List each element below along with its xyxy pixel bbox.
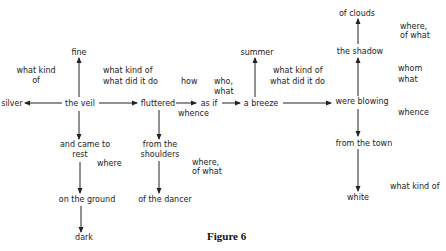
question-whom: whom <box>398 64 423 73</box>
node-from-the-town: from the town <box>336 139 392 148</box>
node-were-blowing: were blowing <box>335 97 388 106</box>
question-where-rest: where <box>97 159 122 168</box>
question-whence-blowing: whence <box>398 108 429 117</box>
node-fine: fine <box>71 48 86 57</box>
node-from-the-shoulders-line2: shoulders <box>141 150 180 159</box>
node-silver: silver <box>1 99 23 108</box>
node-summer: summer <box>240 48 274 57</box>
node-a-breeze: a breeze <box>244 99 279 108</box>
diagram-canvas: silver the veil fine fluttered as if a b… <box>0 0 446 251</box>
question-what-kind-of-line1: what kind <box>16 66 55 75</box>
question-what-kind-of-line2: of <box>32 76 40 85</box>
question-where-of-what-top-line2: of what <box>400 31 430 40</box>
question-breeze-blowing-line1: what kind of <box>273 66 323 75</box>
question-veil-fluttered-line2: what did it do <box>103 77 158 86</box>
question-what-kind-of-white: what kind of <box>390 182 440 191</box>
node-from-the-shoulders-line1: from the <box>143 140 177 149</box>
node-on-the-ground: on the ground <box>59 195 115 204</box>
figure-caption: Figure 6 <box>207 230 247 242</box>
node-as-if: as if <box>201 99 218 108</box>
sentence-diagram: silver the veil fine fluttered as if a b… <box>0 0 446 251</box>
node-the-shadow: the shadow <box>337 47 384 56</box>
question-how: how <box>181 77 198 86</box>
question-what: what <box>398 75 418 84</box>
question-who-line1: who, <box>214 77 233 86</box>
question-where-of-what-mid-line2: of what <box>192 167 222 176</box>
question-where-of-what-top-line1: where, <box>400 22 427 31</box>
question-whence-asif: whence <box>178 109 209 118</box>
node-of-clouds: of clouds <box>339 9 375 18</box>
node-white: white <box>347 193 369 202</box>
question-veil-fluttered-line1: what kind of <box>103 66 153 75</box>
node-the-veil: the veil <box>65 99 95 108</box>
node-of-the-dancer: of the dancer <box>138 195 192 204</box>
question-who-line2: what <box>214 87 234 96</box>
question-breeze-blowing-line2: what did it do <box>270 77 325 86</box>
node-fluttered: fluttered <box>141 99 175 108</box>
node-and-came-to-rest-line2: rest <box>72 150 87 159</box>
node-and-came-to-rest-line1: and came to <box>60 140 110 149</box>
question-where-of-what-mid-line1: where, <box>192 158 219 167</box>
node-dark: dark <box>75 233 93 242</box>
